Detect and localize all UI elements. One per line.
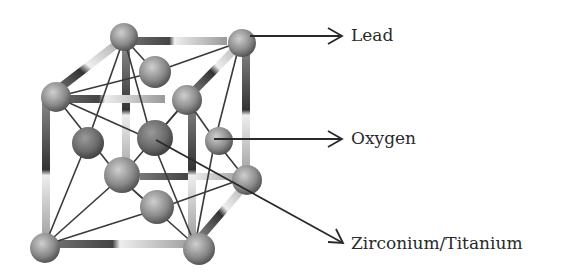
label-zirconium-titanium: Zirconium/Titanium — [351, 235, 523, 252]
lead-atom — [41, 82, 71, 112]
label-lead: Lead — [351, 27, 393, 44]
label-oxygen: Oxygen — [351, 130, 416, 147]
lead-atom — [183, 233, 215, 265]
zirconium-titanium-atom — [137, 120, 173, 156]
oxygen-atom — [172, 85, 202, 115]
lead-atom — [30, 233, 60, 263]
oxygen-atom — [205, 127, 233, 155]
oxygen-atom — [139, 56, 171, 88]
lead-atom — [110, 23, 138, 51]
oxygen-atom — [140, 190, 174, 224]
lead-atom — [228, 29, 256, 57]
oxygen-atom — [104, 157, 140, 193]
oxygen-atom — [72, 127, 104, 159]
